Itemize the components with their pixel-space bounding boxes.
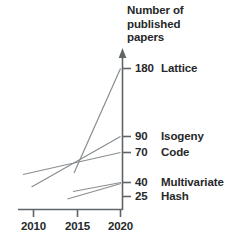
series-name-multivariate: Multivariate bbox=[161, 176, 224, 188]
series-value-hash: 25 bbox=[135, 190, 157, 202]
series-value-code: 70 bbox=[135, 146, 157, 158]
series-name-lattice: Lattice bbox=[161, 62, 197, 74]
series-label-lattice: 180 Lattice bbox=[135, 62, 197, 74]
series-value-isogeny: 90 bbox=[135, 130, 157, 142]
series-label-code: 70 Code bbox=[135, 146, 189, 158]
series-name-isogeny: Isogeny bbox=[161, 130, 204, 142]
chart-figure: Number of published papers 180 Lattice 9… bbox=[0, 0, 232, 242]
series-value-lattice: 180 bbox=[135, 62, 157, 74]
y-axis-arrowhead bbox=[119, 48, 127, 58]
x-tick-label-2020: 2020 bbox=[98, 220, 143, 232]
series-line-code bbox=[23, 153, 121, 175]
series-label-hash: 25 Hash bbox=[135, 190, 189, 202]
series-label-isogeny: 90 Isogeny bbox=[135, 130, 204, 142]
x-tick-label-2010: 2010 bbox=[11, 220, 56, 232]
series-value-multivariate: 40 bbox=[135, 176, 157, 188]
series-line-isogeny bbox=[32, 137, 121, 188]
series-label-multivariate: 40 Multivariate bbox=[135, 176, 224, 188]
series-name-hash: Hash bbox=[161, 190, 189, 202]
plot-area bbox=[0, 0, 232, 242]
x-tick-label-2015: 2015 bbox=[55, 220, 100, 232]
series-name-code: Code bbox=[161, 146, 189, 158]
